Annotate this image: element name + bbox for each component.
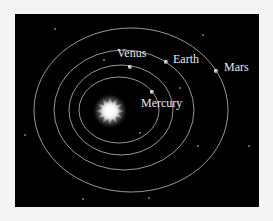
star-dot (139, 132, 141, 134)
star-dot (248, 145, 250, 147)
star-dot (148, 197, 150, 199)
star-dot (82, 198, 84, 200)
star-dot (103, 59, 105, 61)
star-dot (179, 87, 181, 89)
star-dot (197, 145, 199, 147)
planet-earth-icon (164, 60, 168, 64)
label-venus: Venus (117, 46, 147, 60)
planet-mercury-icon (150, 90, 154, 94)
label-earth: Earth (173, 52, 199, 66)
label-mercury: Mercury (141, 96, 182, 110)
orbit-diagram-canvas: MercuryVenusEarthMars (0, 0, 273, 221)
planet-venus-icon (128, 65, 132, 69)
planet-mars-icon (214, 69, 218, 73)
sun-icon (93, 94, 127, 128)
star-dot (202, 34, 204, 36)
label-mars: Mars (224, 60, 249, 74)
star-dot (54, 28, 56, 30)
star-dot (24, 134, 26, 136)
